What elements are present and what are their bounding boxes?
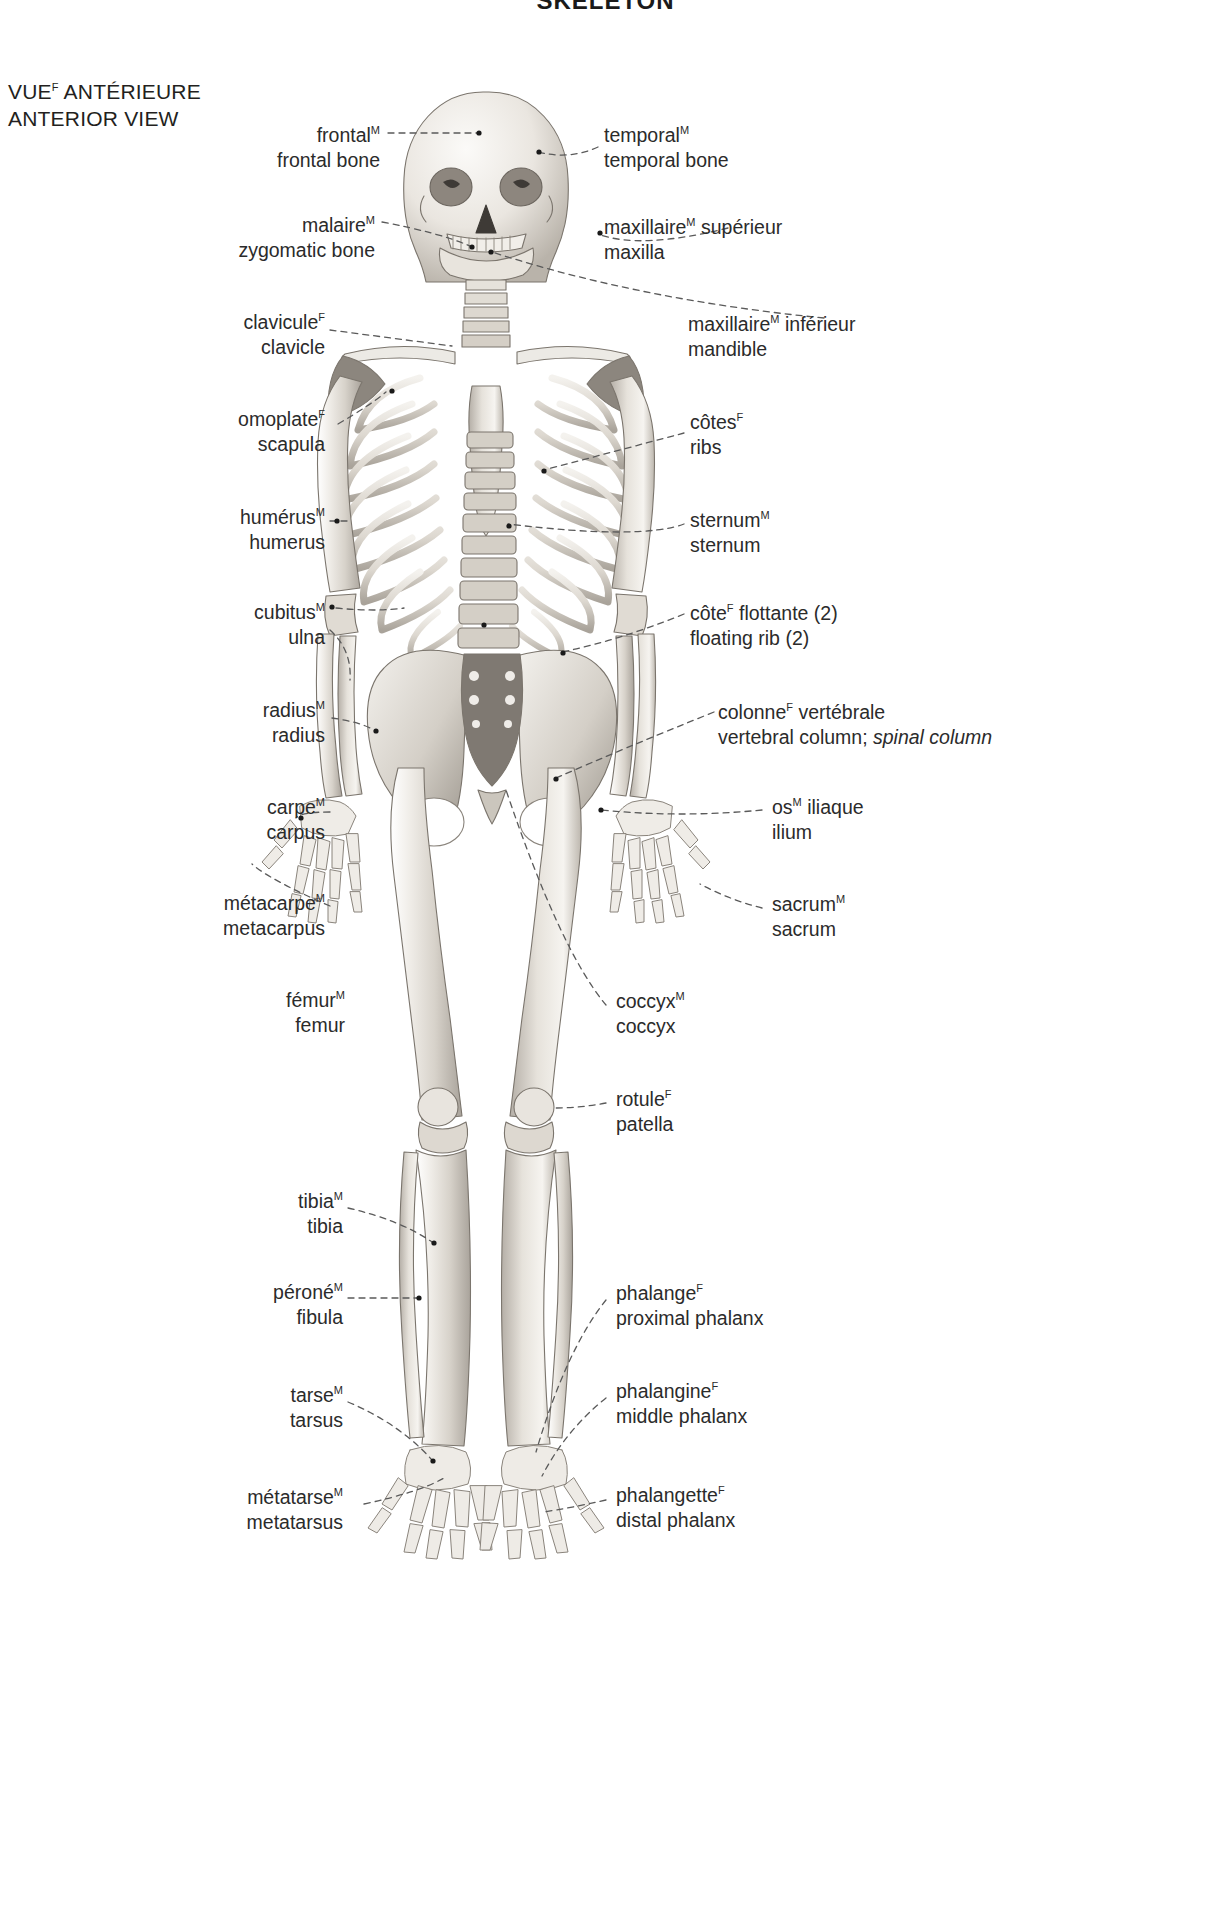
label-frontal: frontalM frontal bone	[120, 118, 380, 173]
label-clavicle: claviculeF clavicle	[80, 305, 325, 360]
label-metacarpus-en: metacarpus	[60, 916, 325, 941]
label-frontal-fr: frontalM	[120, 118, 380, 148]
label-maxilla: maxillaireM supérieur maxilla	[604, 210, 782, 265]
label-tibia: tibiaM tibia	[100, 1184, 343, 1239]
label-proximal-phalanx: phalangeF proximal phalanx	[616, 1276, 763, 1331]
label-sternum: sternumM sternum	[690, 503, 770, 558]
label-fibula-fr: péronéM	[100, 1275, 343, 1305]
label-mandible-en: mandible	[688, 337, 855, 362]
label-sacrum: sacrumM sacrum	[772, 887, 845, 942]
label-metatarsus-en: metatarsus	[80, 1510, 343, 1535]
vertebral-column	[458, 350, 519, 648]
left-leg	[391, 768, 471, 1446]
label-tarsus: tarseM tarsus	[100, 1378, 343, 1433]
label-proximal-phalanx-fr: phalangeF	[616, 1276, 763, 1306]
label-metacarpus-fr: métacarpeM	[60, 886, 325, 916]
label-scapula-fr: omoplateF	[80, 402, 325, 432]
label-middle-phalanx-fr: phalangineF	[616, 1374, 747, 1404]
label-vertebral-column-en: vertebral column; spinal column	[718, 725, 992, 750]
anatomy-plate: SKELETON VUEF ANTÉRIEURE ANTERIOR VIEW	[0, 0, 1211, 1909]
label-humerus-en: humerus	[80, 530, 325, 555]
label-scapula-en: scapula	[80, 432, 325, 457]
label-humerus-fr: humérusM	[80, 500, 325, 530]
label-frontal-en: frontal bone	[120, 148, 380, 173]
label-temporal-fr: temporalM	[604, 118, 729, 148]
label-humerus: humérusM humerus	[80, 500, 325, 555]
label-floating-rib-fr: côteF flottante (2)	[690, 596, 838, 626]
label-mandible-fr: maxillaireM inférieur	[688, 307, 855, 337]
label-ribs-en: ribs	[690, 435, 743, 460]
label-sacrum-en: sacrum	[772, 917, 845, 942]
label-middle-phalanx: phalangineF middle phalanx	[616, 1374, 747, 1429]
label-zygomatic: malaireM zygomatic bone	[120, 208, 375, 263]
label-femur: fémurM femur	[100, 983, 345, 1038]
label-ilium-en: ilium	[772, 820, 864, 845]
label-fibula: péronéM fibula	[100, 1275, 343, 1330]
label-clavicle-en: clavicle	[80, 335, 325, 360]
label-patella-fr: rotuleF	[616, 1082, 673, 1112]
label-ulna-en: ulna	[80, 625, 325, 650]
label-femur-fr: fémurM	[100, 983, 345, 1013]
label-zygomatic-en: zygomatic bone	[120, 238, 375, 263]
label-tarsus-fr: tarseM	[100, 1378, 343, 1408]
label-radius-en: radius	[80, 723, 325, 748]
label-middle-phalanx-en: middle phalanx	[616, 1404, 747, 1429]
label-metatarsus: métatarseM metatarsus	[80, 1480, 343, 1535]
label-tibia-en: tibia	[100, 1214, 343, 1239]
label-vertebral-column-fr: colonneF vertébrale	[718, 695, 992, 725]
cervical-spine	[462, 280, 510, 347]
label-carpus: carpeM carpus	[80, 790, 325, 845]
label-sacrum-fr: sacrumM	[772, 887, 845, 917]
right-arm	[610, 376, 656, 798]
label-radius-fr: radiusM	[80, 693, 325, 723]
left-foot	[368, 1445, 492, 1559]
skull-group	[404, 92, 569, 282]
label-carpus-fr: carpeM	[80, 790, 325, 820]
label-metatarsus-fr: métatarseM	[80, 1480, 343, 1510]
label-temporal: temporalM temporal bone	[604, 118, 729, 173]
label-distal-phalanx: phalangetteF distal phalanx	[616, 1478, 735, 1533]
label-fibula-en: fibula	[100, 1305, 343, 1330]
label-clavicle-fr: claviculeF	[80, 305, 325, 335]
label-metacarpus: métacarpeM metacarpus	[60, 886, 325, 941]
label-distal-phalanx-fr: phalangetteF	[616, 1478, 735, 1508]
label-tibia-fr: tibiaM	[100, 1184, 343, 1214]
label-floating-rib: côteF flottante (2) floating rib (2)	[690, 596, 838, 651]
label-femur-en: femur	[100, 1013, 345, 1038]
right-hand	[610, 800, 710, 923]
label-carpus-en: carpus	[80, 820, 325, 845]
label-radius: radiusM radius	[80, 693, 325, 748]
label-sternum-en: sternum	[690, 533, 770, 558]
label-coccyx-en: coccyx	[616, 1014, 685, 1039]
label-floating-rib-en: floating rib (2)	[690, 626, 838, 651]
label-patella-en: patella	[616, 1112, 673, 1137]
label-temporal-en: temporal bone	[604, 148, 729, 173]
skeleton-illustration	[0, 0, 1211, 1909]
label-vertebral-column: colonneF vertébrale vertebral column; sp…	[718, 695, 992, 750]
label-ilium-fr: osM iliaque	[772, 790, 864, 820]
label-patella: rotuleF patella	[616, 1082, 673, 1137]
label-maxilla-fr: maxillaireM supérieur	[604, 210, 782, 240]
label-ulna-fr: cubitusM	[80, 595, 325, 625]
label-mandible: maxillaireM inférieur mandible	[688, 307, 855, 362]
label-maxilla-en: maxilla	[604, 240, 782, 265]
label-tarsus-en: tarsus	[100, 1408, 343, 1433]
label-proximal-phalanx-en: proximal phalanx	[616, 1306, 763, 1331]
label-coccyx: coccyxM coccyx	[616, 984, 685, 1039]
label-ulna: cubitusM ulna	[80, 595, 325, 650]
right-foot	[480, 1445, 604, 1559]
label-ilium: osM iliaque ilium	[772, 790, 864, 845]
label-scapula: omoplateF scapula	[80, 402, 325, 457]
label-ribs: côtesF ribs	[690, 405, 743, 460]
label-sternum-fr: sternumM	[690, 503, 770, 533]
label-distal-phalanx-en: distal phalanx	[616, 1508, 735, 1533]
label-ribs-fr: côtesF	[690, 405, 743, 435]
label-coccyx-fr: coccyxM	[616, 984, 685, 1014]
label-zygomatic-fr: malaireM	[120, 208, 375, 238]
